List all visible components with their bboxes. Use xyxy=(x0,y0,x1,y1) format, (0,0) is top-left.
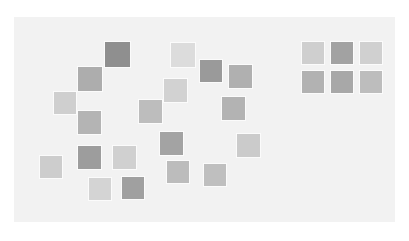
grid-square-g5 xyxy=(330,70,354,94)
figure-stage xyxy=(0,0,409,241)
grid-square-g4 xyxy=(301,70,325,94)
grid-square-g1 xyxy=(301,41,325,65)
grid-square-g3 xyxy=(359,41,383,65)
ordered-grid-layer xyxy=(0,0,409,241)
grid-square-g2 xyxy=(330,41,354,65)
grid-square-g6 xyxy=(359,70,383,94)
